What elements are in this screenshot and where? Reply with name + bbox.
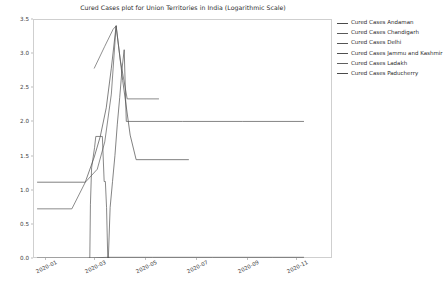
legend-color-swatch [337, 53, 348, 54]
legend-item[interactable]: Cured Cases Jammu and Kashmir [337, 48, 441, 58]
legend-item[interactable]: Cured Cases Delhi [337, 38, 441, 48]
legend-item-label: Cured Cases Ladakh [351, 61, 407, 67]
series-lines [33, 19, 332, 258]
x-axis-tick-mark [94, 258, 95, 260]
legend-color-swatch [337, 63, 348, 64]
x-axis-tick-mark [145, 258, 146, 260]
series-line [37, 26, 188, 182]
y-axis-tick-label: 2.5 [20, 84, 29, 90]
legend-item[interactable]: Cured Cases Andaman [337, 18, 441, 28]
y-axis-tick-mark [31, 189, 33, 190]
y-axis-tick-mark [31, 155, 33, 156]
series-line [94, 26, 116, 68]
legend-item[interactable]: Cured Cases Paducherry [337, 68, 441, 78]
x-axis-tick-label: 2020-05 [135, 259, 158, 274]
x-axis-tick-mark [45, 258, 46, 260]
series-line [37, 26, 158, 209]
plot-area: 0.00.51.01.52.02.53.03.5 2020-012020-032… [33, 19, 332, 258]
x-axis-tick-mark [296, 258, 297, 260]
legend-color-swatch [337, 73, 348, 74]
y-axis-tick-mark [31, 121, 33, 122]
y-axis-tick-label: 3.0 [20, 50, 29, 56]
legend-item-label: Cured Cases Paducherry [351, 71, 418, 77]
y-axis-tick-label: 3.5 [20, 16, 29, 22]
legend-color-swatch [337, 33, 348, 34]
y-axis-tick-label: 2.0 [20, 118, 29, 124]
series-line [108, 50, 303, 258]
figure-canvas: Cured Cases plot for Union Territories i… [0, 0, 443, 290]
y-axis-tick-mark [31, 87, 33, 88]
y-axis-tick-label: 1.0 [20, 187, 29, 193]
y-axis-tick-label: 0.0 [20, 255, 29, 261]
x-axis-tick-mark [196, 258, 197, 260]
legend-color-swatch [337, 23, 348, 24]
y-axis-tick-mark [31, 258, 33, 259]
x-axis-tick-label: 2020-09 [237, 259, 260, 274]
legend-color-swatch [337, 43, 348, 44]
x-axis-tick-mark [247, 258, 248, 260]
x-axis-tick-label: 2020-01 [35, 259, 58, 274]
legend: Cured Cases AndamanCured Cases Chandigar… [337, 18, 441, 79]
y-axis-tick-label: 1.5 [20, 153, 29, 159]
x-axis-tick-label: 2020-11 [286, 259, 309, 274]
legend-item-label: Cured Cases Delhi [351, 40, 401, 46]
y-axis-tick-mark [31, 19, 33, 20]
x-axis-tick-label: 2020-07 [186, 259, 209, 274]
legend-item-label: Cured Cases Chandigarh [351, 30, 419, 36]
legend-item[interactable]: Cured Cases Ladakh [337, 58, 441, 68]
legend-item-label: Cured Cases Jammu and Kashmir [351, 51, 443, 57]
y-axis-tick-mark [31, 223, 33, 224]
series-line [90, 136, 109, 258]
x-axis-tick-label: 2020-03 [84, 259, 107, 274]
series-line [37, 257, 303, 258]
legend-item-label: Cured Cases Andaman [351, 20, 414, 26]
y-axis-tick-label: 0.5 [20, 221, 29, 227]
legend-item[interactable]: Cured Cases Chandigarh [337, 28, 441, 38]
y-axis-tick-mark [31, 53, 33, 54]
page-title: Cured Cases plot for Union Territories i… [33, 4, 333, 11]
